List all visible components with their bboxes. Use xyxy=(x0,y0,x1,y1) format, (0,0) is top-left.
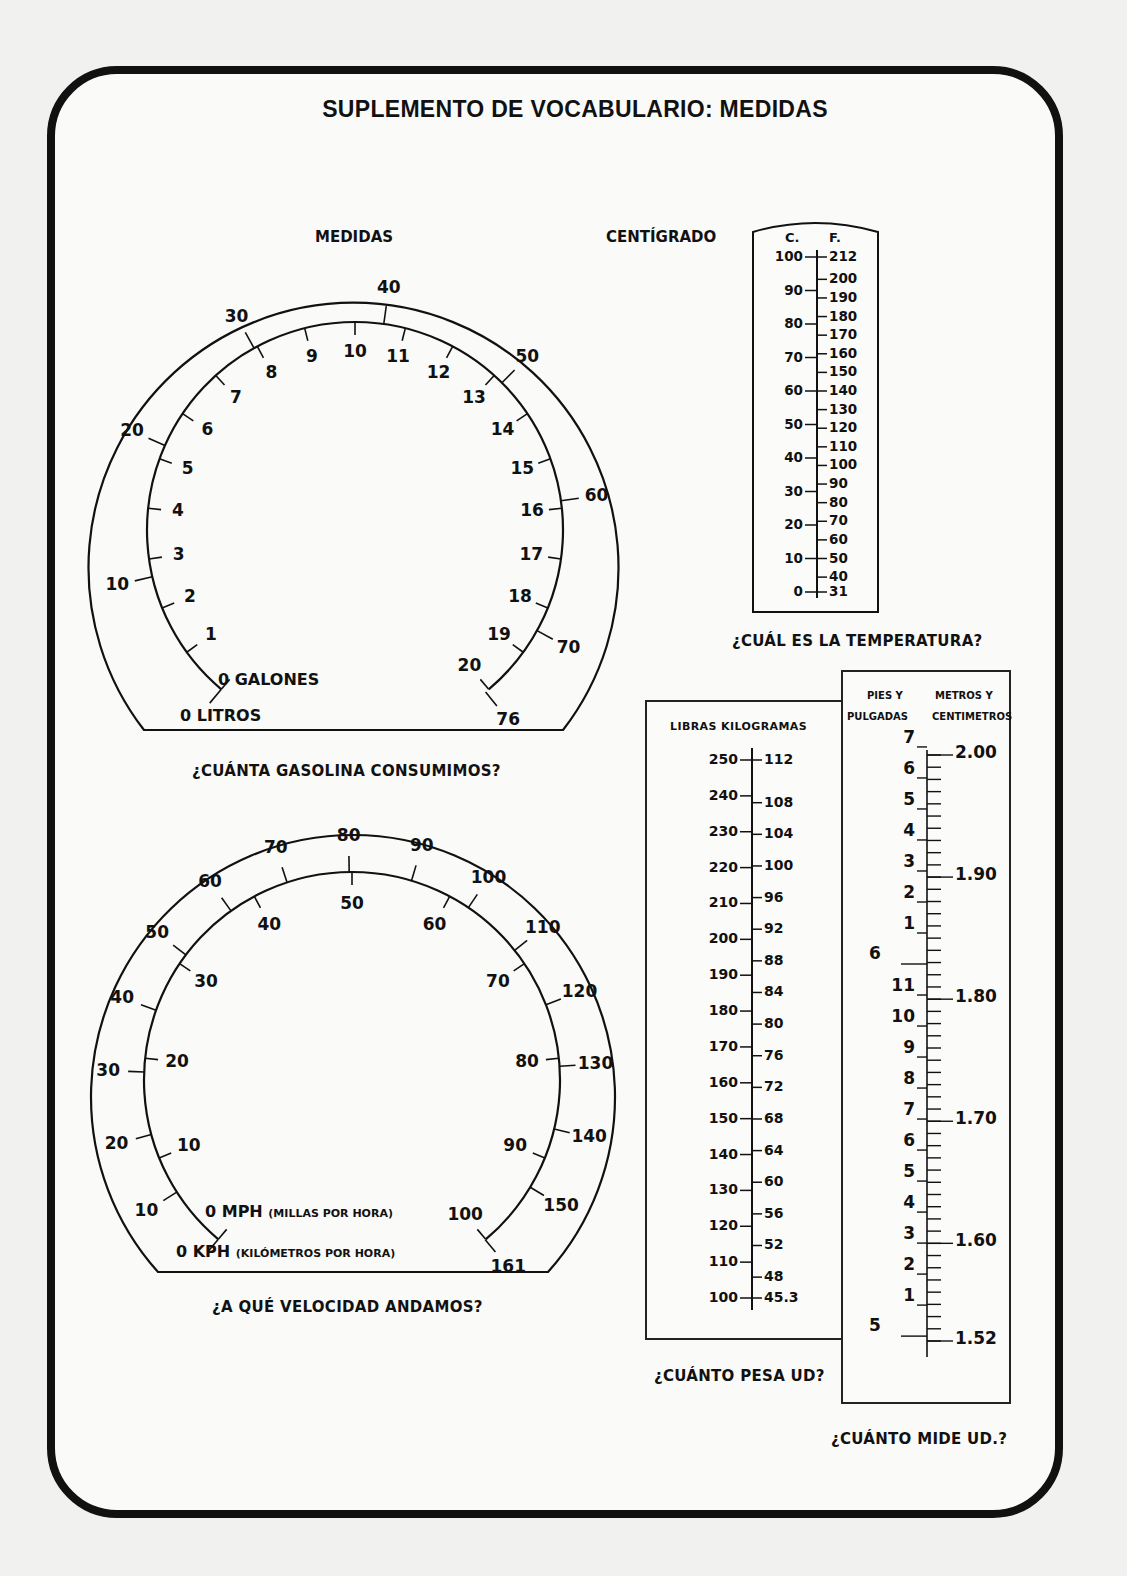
scale-label: 1 xyxy=(903,1285,915,1305)
scale-label: 2.00 xyxy=(955,742,997,762)
scale-label: 6 xyxy=(903,758,915,778)
scale-label: 1.80 xyxy=(955,986,997,1006)
scale-label: 10 xyxy=(891,1006,915,1026)
scale-label: 8 xyxy=(903,1068,915,1088)
scale-label: 5 xyxy=(903,1161,915,1181)
height-scale: 2.001.901.801.701.601.526576543211110987… xyxy=(0,0,1127,1576)
scale-label: 3 xyxy=(903,1223,915,1243)
scale-label: 6 xyxy=(903,1130,915,1150)
scale-label: 1.52 xyxy=(955,1328,997,1348)
scale-label: 2 xyxy=(903,1254,915,1274)
scale-label: 4 xyxy=(903,820,915,840)
scale-label: 7 xyxy=(903,727,915,747)
scale-label: 5 xyxy=(869,1315,881,1335)
scale-label: 4 xyxy=(903,1192,915,1212)
scale-label: 2 xyxy=(903,882,915,902)
scale-label: 9 xyxy=(903,1037,915,1057)
scale-label: 3 xyxy=(903,851,915,871)
scale-label: 11 xyxy=(891,975,915,995)
scale-label: 1.60 xyxy=(955,1230,997,1250)
scale-label: 1.90 xyxy=(955,864,997,884)
height-caption: ¿CUÁNTO MIDE UD.? xyxy=(831,1430,1007,1448)
scale-label: 6 xyxy=(869,943,881,963)
scale-label: 5 xyxy=(903,789,915,809)
scale-label: 1.70 xyxy=(955,1108,997,1128)
scale-label: 7 xyxy=(903,1099,915,1119)
scale-label: 1 xyxy=(903,913,915,933)
